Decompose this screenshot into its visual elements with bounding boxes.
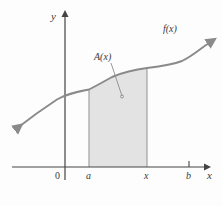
- tick-label-b: b: [186, 171, 191, 181]
- x-axis-label: x: [207, 170, 212, 181]
- area-function-figure: y x 0 a x b A(x) f(x): [0, 0, 222, 206]
- origin-label: 0: [55, 171, 60, 181]
- tick-label-x: x: [144, 171, 148, 181]
- curve-function-label: f(x): [163, 24, 177, 34]
- tick-label-a: a: [86, 171, 91, 181]
- y-axis-label: y: [51, 11, 56, 22]
- area-function-label: A(x): [94, 52, 111, 62]
